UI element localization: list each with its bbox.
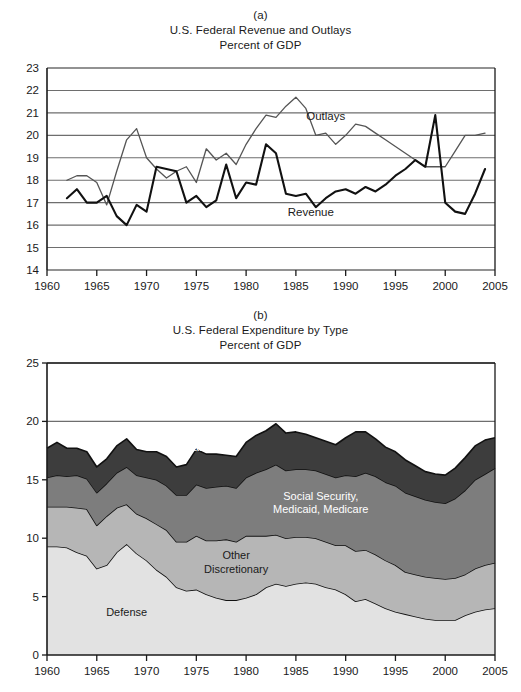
x-tick-label-1965: 1965 <box>84 665 110 677</box>
panel-a-plot: 1415161718192021222319601965197019751980… <box>0 0 521 300</box>
y-tick-label-10: 10 <box>26 532 39 544</box>
annotation-revenue: Revenue <box>288 206 334 218</box>
area-label-other-discretionary-line2: Discretionary <box>204 563 269 575</box>
y-tick-label-20: 20 <box>26 415 39 427</box>
y-tick-label-18: 18 <box>26 174 39 186</box>
panel-b-expenditure-by-type: (b) U.S. Federal Expenditure by Type Per… <box>0 300 521 692</box>
y-tick-label-15: 15 <box>26 242 39 254</box>
annotation-outlays: Outlays <box>306 110 345 122</box>
x-tick-label-1995: 1995 <box>383 665 409 677</box>
y-tick-label-17: 17 <box>26 197 39 209</box>
y-tick-label-0: 0 <box>33 649 39 661</box>
area-label-ssmm-line2: Medicaid, Medicare <box>273 503 368 515</box>
y-tick-label-21: 21 <box>26 107 39 119</box>
y-tick-label-19: 19 <box>26 152 39 164</box>
x-tick-label-1995: 1995 <box>383 280 409 292</box>
y-tick-label-25: 25 <box>26 357 39 369</box>
chart-a-svg: 1415161718192021222319601965197019751980… <box>0 0 521 300</box>
y-tick-label-5: 5 <box>33 591 39 603</box>
x-tick-label-1960: 1960 <box>34 280 60 292</box>
panel-b-plot: 0510152025196019651970197519801985199019… <box>0 300 521 692</box>
x-tick-label-1970: 1970 <box>134 280 160 292</box>
area-label-other-discretionary-line1: Other <box>222 549 250 561</box>
area-label-other-mandatory-line1: Other <box>178 428 206 440</box>
x-tick-label-1980: 1980 <box>233 665 259 677</box>
x-tick-label-1960: 1960 <box>34 665 60 677</box>
x-tick-label-2005: 2005 <box>482 280 508 292</box>
x-tick-label-1985: 1985 <box>283 665 309 677</box>
x-tick-label-2000: 2000 <box>432 665 458 677</box>
x-tick-label-1990: 1990 <box>333 665 359 677</box>
chart-b-svg: 0510152025196019651970197519801985199019… <box>0 300 521 692</box>
y-tick-label-22: 22 <box>26 84 39 96</box>
area-label-ssmm-line1: Social Security, <box>283 490 358 502</box>
x-tick-label-2005: 2005 <box>482 665 508 677</box>
x-tick-label-1985: 1985 <box>283 280 309 292</box>
series-line-revenue <box>67 115 485 225</box>
x-tick-label-1975: 1975 <box>184 280 210 292</box>
area-label-defense: Defense <box>106 606 147 618</box>
y-tick-label-14: 14 <box>26 264 39 276</box>
x-tick-label-1965: 1965 <box>84 280 110 292</box>
panel-a-revenue-outlays: (a) U.S. Federal Revenue and Outlays Per… <box>0 0 521 300</box>
x-tick-label-2000: 2000 <box>432 280 458 292</box>
x-tick-label-1975: 1975 <box>184 665 210 677</box>
x-tick-label-1980: 1980 <box>233 280 259 292</box>
y-tick-label-16: 16 <box>26 219 39 231</box>
y-tick-label-23: 23 <box>26 62 39 74</box>
x-tick-label-1970: 1970 <box>134 665 160 677</box>
area-label-other-mandatory-line2: Mandatory <box>165 441 217 453</box>
y-tick-label-20: 20 <box>26 129 39 141</box>
y-tick-label-15: 15 <box>26 474 39 486</box>
x-tick-label-1990: 1990 <box>333 280 359 292</box>
